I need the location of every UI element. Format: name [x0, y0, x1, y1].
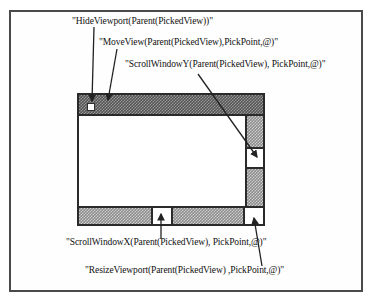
title-bar[interactable] [79, 95, 263, 116]
vertical-track-lower[interactable] [247, 169, 263, 206]
label-move-view: "MoveView(Parent(PickedView),PickPoint,@… [99, 37, 278, 47]
close-box[interactable] [87, 103, 95, 111]
label-scroll-window-y: "ScrollWindowY(Parent(PickedView), PickP… [125, 59, 325, 69]
label-hide-viewport: "HideViewport(Parent(PickedView))" [72, 16, 213, 26]
viewport-window [77, 93, 265, 226]
horizontal-scrollbar[interactable] [79, 206, 263, 224]
vertical-scrollbar[interactable] [245, 116, 263, 206]
vertical-track-upper[interactable] [247, 116, 263, 149]
label-resize-viewport: "ResizeViewport(Parent(PickedView) ,Pick… [85, 265, 284, 275]
vertical-thumb[interactable] [247, 149, 263, 169]
horizontal-thumb[interactable] [153, 208, 173, 224]
horizontal-track-left[interactable] [79, 208, 153, 224]
resize-box[interactable] [247, 208, 263, 224]
label-scroll-window-x: "ScrollWindowX(Parent(PickedView), PickP… [66, 237, 266, 247]
horizontal-track-right[interactable] [173, 208, 245, 224]
